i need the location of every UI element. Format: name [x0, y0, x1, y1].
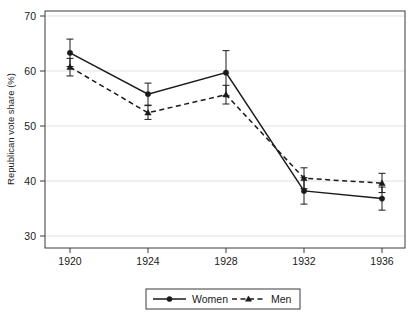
data-point-marker-circle [67, 50, 72, 55]
y-tick-label-50: 50 [24, 120, 36, 132]
chart-legend: Women Men [146, 289, 300, 309]
legend-label-men: Men [271, 293, 292, 305]
x-tick-label-1928: 1928 [214, 255, 238, 267]
x-tick-label-1920: 1920 [58, 255, 82, 267]
republican-vote-share-line-chart: 70 60 50 40 30 Republican vote share (%)… [0, 0, 413, 316]
chart-container: 70 60 50 40 30 Republican vote share (%)… [0, 0, 413, 316]
y-tick-label-40: 40 [24, 175, 36, 187]
y-axis-title: Republican vote share (%) [5, 73, 16, 185]
y-tick-label-60: 60 [24, 65, 36, 77]
y-axis-ticks [40, 16, 45, 236]
x-tick-label-1932: 1932 [292, 255, 316, 267]
x-axis-tick-labels: 1920 1924 1928 1932 1936 [58, 255, 394, 267]
data-point-marker-circle [379, 196, 384, 201]
data-point-marker-circle [223, 70, 228, 75]
plot-background [45, 11, 405, 248]
x-tick-label-1924: 1924 [136, 255, 160, 267]
x-axis-ticks [70, 248, 382, 253]
y-tick-label-30: 30 [24, 230, 36, 242]
legend-label-women: Women [192, 293, 228, 305]
legend-marker-circle [167, 296, 172, 301]
data-point-marker-circle [145, 91, 150, 96]
y-axis-tick-labels: 70 60 50 40 30 [24, 10, 36, 242]
x-tick-label-1936: 1936 [370, 255, 394, 267]
y-tick-label-70: 70 [24, 10, 36, 22]
